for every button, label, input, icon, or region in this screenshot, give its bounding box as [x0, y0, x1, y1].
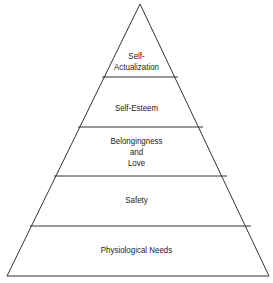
level-physiological-needs: Physiological Needs: [16, 245, 256, 256]
level-text: Actualization: [16, 62, 256, 73]
level-self-esteem: Self-Esteem: [16, 103, 256, 114]
level-belongingness: Belongingness and Love: [16, 136, 256, 169]
level-text: and: [16, 147, 256, 158]
level-text: Belongingness: [16, 136, 256, 147]
level-text: Self-Esteem: [16, 103, 256, 114]
level-text: Safety: [16, 195, 256, 206]
level-safety: Safety: [16, 195, 256, 206]
level-text: Self-: [16, 51, 256, 62]
level-self-actualization: Self- Actualization: [16, 51, 256, 73]
level-text: Love: [16, 158, 256, 169]
level-text: Physiological Needs: [16, 245, 256, 256]
